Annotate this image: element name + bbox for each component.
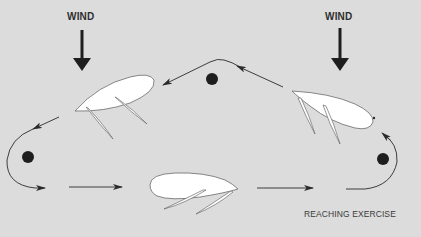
mark-right bbox=[377, 153, 389, 165]
boat-left bbox=[75, 75, 154, 139]
boat-bottom bbox=[150, 173, 238, 214]
boat-right bbox=[292, 91, 375, 144]
wind-arrow-right-icon bbox=[331, 28, 349, 71]
mark-left bbox=[22, 151, 34, 163]
top-leg-path bbox=[163, 59, 283, 87]
left-rounding-path bbox=[7, 117, 59, 188]
right-rounding-path bbox=[346, 133, 397, 189]
wind-arrow-left-icon bbox=[73, 30, 91, 71]
diagram-canvas bbox=[0, 0, 421, 237]
reaching-exercise-diagram: WIND WIND REACHING EXERCISE bbox=[0, 0, 421, 237]
diagram-caption: REACHING EXERCISE bbox=[304, 209, 396, 219]
mark-top bbox=[206, 73, 218, 85]
wind-label-right: WIND bbox=[325, 11, 352, 22]
wind-label-left: WIND bbox=[67, 11, 94, 22]
